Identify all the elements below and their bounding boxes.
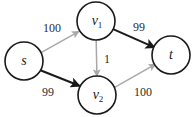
node-label-s-text: s [21,53,26,68]
node-label-t-text: t [169,47,173,62]
edge-label-v2-t: 100 [134,85,152,100]
edge-label-s-v2: 99 [42,85,54,100]
edge-v1-v2 [96,40,97,76]
node-label-v2-subscript: 2 [99,94,104,104]
node-label-t: t [169,48,173,62]
flow-network-diagram: s v1 v2 t 100 99 1 99 100 [0,0,193,117]
node-label-v2: v2 [93,88,104,102]
node-label-s: s [21,54,26,68]
edge-label-v1-t: 99 [133,20,145,35]
edge-label-v1-v2: 1 [104,52,110,67]
edge-s-v2 [41,71,79,86]
node-label-v1: v1 [92,14,103,28]
edge-label-s-v1: 100 [43,21,61,36]
node-label-v1-subscript: 1 [98,20,103,30]
